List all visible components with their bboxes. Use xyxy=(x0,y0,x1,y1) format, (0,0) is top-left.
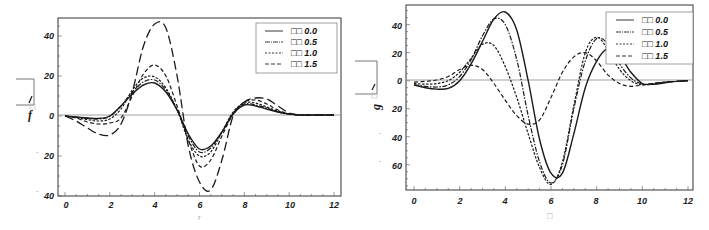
x-tick-label: 0 xyxy=(63,200,68,210)
x-tick-label: 2 xyxy=(456,196,462,206)
y-tick-label: 20 xyxy=(43,71,54,81)
x-tick-label: 0 xyxy=(411,196,416,206)
x-tick-label: 8 xyxy=(242,200,247,210)
x-tick-label: 6 xyxy=(197,200,203,210)
y-tick-label: 40 xyxy=(43,191,54,201)
y-tick-label: 0 xyxy=(49,111,54,121)
chart-f-svg: f 40 20 0 20 40 - - 0 2 4 6 8 10 12 r □□ xyxy=(0,0,350,230)
y-axis-label: g xyxy=(369,104,383,111)
legend-label: □□ 0.5 xyxy=(291,37,318,47)
legend-label: □□ 0.0 xyxy=(642,15,668,25)
legend-label: □□ 1.5 xyxy=(291,59,318,69)
legend-label: □□ 1.5 xyxy=(642,51,669,61)
x-tick-label: 10 xyxy=(285,200,295,210)
y-tick-label: 20 xyxy=(391,49,402,59)
series-line-0.5 xyxy=(65,79,334,152)
legend-label: □□ 0.5 xyxy=(642,27,669,37)
legend: □□ 0.0 □□ 0.5 □□ 1.0 □□ 1.5 xyxy=(256,23,337,73)
y-tick-label: 40 xyxy=(391,21,402,31)
series-line-0.0 xyxy=(65,83,334,150)
x-tick-label: 12 xyxy=(683,196,693,206)
legend-label: □□ 1.0 xyxy=(291,48,317,58)
x-tick-label: 4 xyxy=(501,196,507,206)
tick-mark-glyph xyxy=(372,84,375,90)
series-line-1.0 xyxy=(65,76,334,157)
y-tick-label: 20 xyxy=(391,104,402,114)
x-tick-label: 4 xyxy=(151,200,157,210)
tick-mark-glyph xyxy=(29,96,32,103)
bracket-mark xyxy=(16,79,34,105)
chart-f: f 40 20 0 20 40 - - 0 2 4 6 8 10 12 r □□ xyxy=(0,0,350,230)
legend-label: □□ 1.0 xyxy=(642,39,668,49)
x-tick-label: 8 xyxy=(593,196,598,206)
bracket-mark xyxy=(355,61,377,94)
x-tick-label: 6 xyxy=(548,196,554,206)
y-axis-label: f xyxy=(28,108,33,122)
y-tick-label: 40 xyxy=(391,133,402,143)
minus-mark: - xyxy=(379,129,382,136)
x-tick-label: 2 xyxy=(107,200,113,210)
y-tick-label: 60 xyxy=(392,161,402,171)
y-tick-label: 20 xyxy=(43,151,54,161)
minus-mark: - xyxy=(379,157,382,164)
x-axis-label: □ xyxy=(547,211,553,221)
x-tick-label: 10 xyxy=(637,196,647,206)
y-tick-label: 0 xyxy=(397,76,402,86)
y-tick-label: 40 xyxy=(43,31,54,41)
minus-mark: - xyxy=(36,148,39,155)
legend: □□ 0.0 □□ 0.5 □□ 1.0 □□ 1.5 xyxy=(606,12,693,64)
x-axis-label: r xyxy=(198,213,201,222)
legend-label: □□ 0.0 xyxy=(291,26,317,36)
minus-mark: - xyxy=(36,187,39,194)
chart-g-svg: g 40 20 0 20 40 60 - - 0 2 4 6 8 10 12 □… xyxy=(350,0,709,230)
x-tick-label: 12 xyxy=(329,200,339,210)
chart-g: g 40 20 0 20 40 60 - - 0 2 4 6 8 10 12 □… xyxy=(350,0,709,230)
